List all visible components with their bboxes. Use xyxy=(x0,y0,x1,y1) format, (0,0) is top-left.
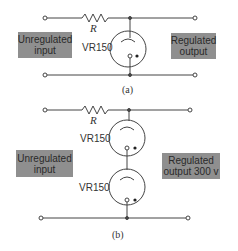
input-terminal-bottom xyxy=(43,73,47,77)
resistor-label-a: R xyxy=(90,22,97,34)
output-terminal-bottom xyxy=(193,73,197,77)
input-terminal-top xyxy=(43,16,47,20)
vr150-tube xyxy=(110,31,146,67)
resistor-r xyxy=(82,14,108,22)
tube-label-b-upper: VR150 xyxy=(80,133,111,144)
junction-bottom xyxy=(126,217,129,220)
regulated-output-label-a: Regulated output xyxy=(171,33,216,59)
resistor-r xyxy=(82,106,108,114)
unregulated-input-label-b: Unregulated input xyxy=(16,150,73,177)
caption-b: (b) xyxy=(112,229,124,240)
tube-anode xyxy=(121,39,135,42)
output-terminal-bottom xyxy=(186,216,190,220)
junction-bottom xyxy=(129,74,132,77)
tube-cathode xyxy=(128,54,132,58)
input-terminal-bottom xyxy=(39,216,43,220)
tube-label-b-lower: VR150 xyxy=(79,182,110,193)
input-terminal-top xyxy=(43,108,47,112)
tube-label-a: VR150 xyxy=(82,42,113,53)
output-terminal-top xyxy=(193,16,197,20)
caption-a: (a) xyxy=(122,84,133,95)
resistor-label-b: R xyxy=(90,114,97,126)
output-terminal-top xyxy=(188,108,192,112)
regulated-output-label-b: Regulated output 300 v xyxy=(162,153,220,179)
unregulated-input-label-a: Unregulated input xyxy=(18,32,72,58)
gas-dot xyxy=(135,54,138,57)
